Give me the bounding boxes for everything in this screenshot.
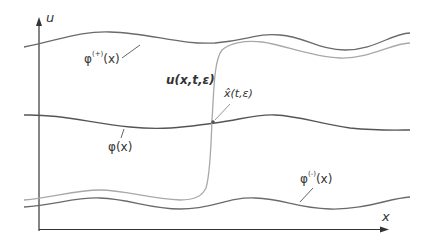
u-upper-branch-curve	[212, 41, 410, 120]
phi-plus-sup: (+)	[92, 50, 103, 58]
x-hat-label: x̂(t,ε)	[224, 87, 253, 100]
phi-minus-arg: (x)	[316, 172, 332, 186]
phi-label: φ(x)	[108, 140, 132, 154]
phi-curve	[24, 115, 410, 130]
x-axis-arrow-icon	[380, 227, 389, 233]
phi-plus-base: φ	[84, 52, 92, 66]
phi-minus-curve	[24, 197, 410, 209]
phi-pointer	[121, 129, 124, 138]
u-axis-label: u	[46, 10, 54, 25]
transition-point	[211, 120, 215, 124]
phi-minus-sup: (-)	[308, 170, 316, 178]
phi-minus-base: φ	[300, 172, 308, 186]
phi-minus-label: φ(-)(x)	[300, 170, 332, 186]
u-axis-arrow-icon	[36, 17, 42, 26]
diagram-canvas	[0, 0, 433, 251]
phi-minus-pointer	[300, 188, 313, 202]
phi-plus-arg: (x)	[103, 52, 119, 66]
x-axis-label: x	[382, 209, 390, 224]
phi-plus-curve	[24, 32, 410, 50]
u-solution-label: u(x,t,ε)	[166, 73, 215, 87]
phi-plus-label: φ(+)(x)	[84, 50, 120, 66]
phi-plus-pointer	[122, 45, 140, 58]
x-hat-pointer	[215, 104, 230, 120]
u-lower-branch-curve	[24, 120, 212, 200]
